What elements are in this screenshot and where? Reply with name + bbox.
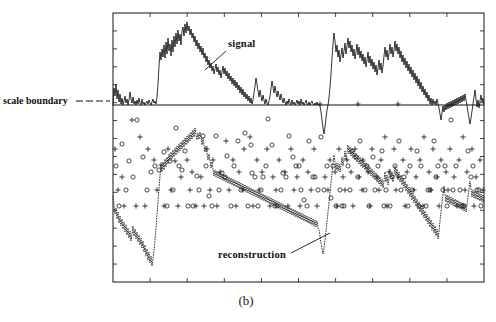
scale-boundary-label: scale boundary [3,95,68,106]
signal-label: signal [228,38,255,49]
figure-caption: (b) [238,293,253,308]
figure-container: scale boundary signal reconstruction (b) [0,0,496,322]
reconstruction-label: reconstruction [218,249,286,260]
figure-plot: scale boundary signal reconstruction (b) [0,0,496,322]
